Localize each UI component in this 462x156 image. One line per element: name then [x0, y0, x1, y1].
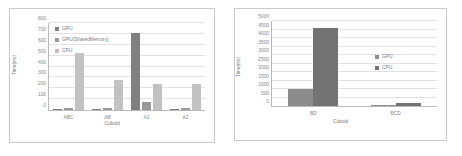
- y-tick-left-2: 200: [38, 81, 49, 86]
- bar-groups-right: BDBCD: [272, 21, 437, 106]
- legend-item-right-CPU: CPU: [375, 65, 393, 70]
- y-tick-left-8: 800: [38, 16, 49, 21]
- y-tick-right-5: 2500: [258, 56, 272, 61]
- bar-group-left-A2: A2: [166, 23, 205, 110]
- chart-frame-right: Time(ms) Cuboid 0 500 1000 1500 2000 250…: [234, 8, 447, 141]
- bar-left-A1-CPU: [153, 84, 162, 110]
- bar-left-A1-GPU(SharedMemory): [142, 102, 151, 110]
- legend-swatch-icon: [55, 49, 59, 53]
- legend-swatch-icon: [375, 55, 379, 59]
- legend-item-right-GPU: GPU: [375, 54, 393, 59]
- legend-label: GPU: [62, 26, 73, 31]
- legend-swatch-icon: [375, 66, 379, 70]
- legend-label: GPU(SharedMemory): [62, 37, 109, 42]
- x-tick-left-ABC: ABC: [49, 110, 88, 120]
- x-axis-title-left: Cuboid: [10, 120, 214, 126]
- y-tick-right-2: 1000: [258, 82, 272, 87]
- legend-swatch-icon: [55, 27, 59, 31]
- legend-label: GPU: [382, 54, 393, 59]
- bar-group-right-BCD: BCD: [355, 21, 438, 106]
- bar-left-A1-GPU: [131, 33, 140, 110]
- y-axis-title-right: Time(ms): [235, 44, 241, 90]
- y-tick-right-1: 500: [261, 90, 272, 95]
- bar-right-BD-GPU: [288, 89, 313, 107]
- x-tick-left-A2: A2: [166, 110, 205, 120]
- bar-left-AB-CPU: [114, 80, 123, 110]
- legend-label: CPU: [62, 48, 72, 53]
- legend-item-left-GPU: GPU: [55, 26, 109, 31]
- chart-panel-right: Time(ms) Cuboid 0 500 1000 1500 2000 250…: [231, 0, 462, 156]
- two-chart-figure: Time(ms) Cuboid 0 100 200 300 400 500 60…: [0, 0, 462, 156]
- plot-area-right: 0 500 1000 1500 2000 2500 3000 3500 4000…: [271, 21, 437, 107]
- y-tick-left-7: 700: [38, 26, 49, 31]
- y-tick-left-1: 100: [38, 92, 49, 97]
- y-tick-right-3: 1500: [258, 73, 272, 78]
- y-tick-left-6: 600: [38, 37, 49, 42]
- y-tick-right-4: 2000: [258, 65, 272, 70]
- y-tick-right-6: 3000: [258, 48, 272, 53]
- legend-left: GPUGPU(SharedMemory)CPU: [55, 26, 109, 59]
- x-tick-right-BD: BD: [272, 106, 355, 116]
- x-tick-left-A1: A1: [127, 110, 166, 120]
- bar-group-right-BD: BD: [272, 21, 355, 106]
- chart-panel-left: Time(ms) Cuboid 0 100 200 300 400 500 60…: [0, 0, 231, 156]
- bar-right-BD-CPU: [313, 28, 338, 106]
- x-tick-left-AB: AB: [88, 110, 127, 120]
- legend-item-left-GPU(SharedMemory): GPU(SharedMemory): [55, 37, 109, 42]
- legend-item-left-CPU: CPU: [55, 48, 109, 53]
- x-axis-title-right: Cuboid: [235, 118, 446, 124]
- chart-frame-left: Time(ms) Cuboid 0 100 200 300 400 500 60…: [9, 8, 215, 143]
- y-tick-right-7: 3500: [258, 39, 272, 44]
- x-tick-right-BCD: BCD: [355, 106, 438, 116]
- y-tick-left-4: 400: [38, 59, 49, 64]
- y-axis-title-left: Time(ms): [11, 43, 17, 87]
- legend-swatch-icon: [55, 38, 59, 42]
- y-tick-left-3: 300: [38, 70, 49, 75]
- y-tick-right-10: 5000: [258, 14, 272, 19]
- bar-group-left-A1: A1: [127, 23, 166, 110]
- y-tick-right-8: 4000: [258, 31, 272, 36]
- legend-right: GPUCPU: [375, 54, 393, 76]
- bar-left-ABC-CPU: [75, 53, 84, 110]
- y-tick-right-9: 4500: [258, 22, 272, 27]
- bar-left-A2-CPU: [192, 84, 201, 110]
- y-tick-left-5: 500: [38, 48, 49, 53]
- legend-label: CPU: [382, 65, 392, 70]
